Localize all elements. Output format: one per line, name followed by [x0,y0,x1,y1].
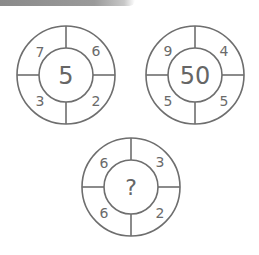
bottom-left-value: 3 [36,93,45,109]
top-right-value: 3 [156,154,165,170]
wheel-1: 5 7 6 3 2 [17,26,115,124]
wheel-3: ? 6 3 6 2 [82,138,180,236]
bottom-left-value: 5 [164,93,173,109]
top-left-value: 9 [164,43,173,59]
center-value: 50 [180,62,211,90]
center-value-unknown: ? [125,175,137,200]
wheel-2: 50 9 4 5 5 [146,26,244,124]
top-right-value: 4 [220,43,229,59]
top-right-value: 6 [92,43,101,59]
number-wheel-puzzle: 5 7 6 3 2 50 9 4 5 5 ? 6 3 6 2 [0,0,259,255]
bottom-right-value: 2 [156,205,165,221]
bottom-right-value: 5 [220,93,229,109]
top-left-value: 7 [36,44,45,60]
bottom-right-value: 2 [92,93,101,109]
bottom-left-value: 6 [100,205,109,221]
top-left-value: 6 [100,155,109,171]
center-value: 5 [58,62,73,90]
